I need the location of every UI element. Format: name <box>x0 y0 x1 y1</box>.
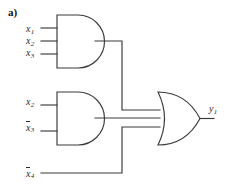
and-gate-top-output-wire <box>95 41 160 110</box>
or-gate-body <box>158 92 200 145</box>
signal-label-x2-middle: x2 <box>26 97 34 109</box>
signal-label-x3-top: x3 <box>26 48 34 60</box>
signal-subscript: 4 <box>30 172 34 180</box>
logic-circuit-figure: a) x1 x2 <box>0 0 228 195</box>
signal-subscript: 2 <box>30 40 34 48</box>
signal-subscript: 3 <box>30 52 34 60</box>
signal-subscript: 3 <box>30 126 34 134</box>
signal-subscript: 2 <box>30 101 34 109</box>
signal-label-y1-output: y1 <box>209 104 217 116</box>
signal-subscript: 1 <box>213 108 217 116</box>
signal-label-x4-not: x4 <box>26 167 34 180</box>
signal-subscript: 1 <box>30 28 34 36</box>
input-x4-not-wire <box>41 127 160 173</box>
signal-label-x3-not: x3 <box>26 121 34 134</box>
